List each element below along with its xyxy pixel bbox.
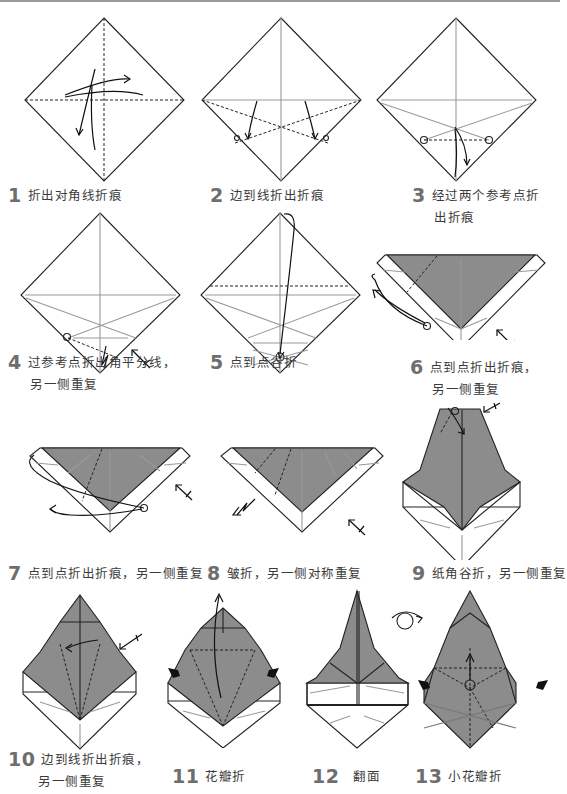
square-diamond-reference-points-icon bbox=[375, 15, 545, 185]
square-diamond-diagonal-creases-icon bbox=[20, 15, 190, 185]
step-4-caption: 4过参考点折出角平分线， 另一侧重复 bbox=[8, 351, 176, 396]
step-9-diagram bbox=[400, 400, 530, 560]
step-text: 点到点折出折痕， bbox=[430, 360, 538, 375]
step-12-diagram bbox=[300, 588, 430, 753]
step-13-caption: 13小花瓣折 bbox=[415, 765, 502, 788]
step-text: 折出对角线折痕 bbox=[28, 188, 123, 203]
bell-petal-fold-icon bbox=[165, 588, 285, 748]
bell-edge-to-line-icon bbox=[20, 592, 160, 752]
step-number: 5 bbox=[210, 351, 224, 373]
step-text: 点到点折出折痕，另一侧重复 bbox=[28, 566, 204, 581]
step-10-diagram bbox=[20, 592, 160, 752]
triangle-point-to-point-icon bbox=[20, 445, 200, 545]
step-8-caption: 8皱折，另一侧对称重复 bbox=[207, 562, 362, 585]
step-12-caption: 12翻面 bbox=[312, 765, 380, 788]
step-number: 3 bbox=[412, 184, 426, 206]
step-text: 过参考点折出角平分线， bbox=[28, 355, 177, 370]
step-2-diagram bbox=[200, 15, 370, 185]
step-text-line2: 另一侧重复 bbox=[8, 771, 149, 793]
step-text: 经过两个参考点折 bbox=[432, 188, 540, 203]
step-number: 13 bbox=[415, 765, 442, 787]
step-3-caption: 3经过两个参考点折 出折痕 bbox=[412, 184, 540, 229]
triangle-crimp-fold-icon bbox=[215, 445, 395, 545]
step-7-diagram bbox=[20, 445, 200, 545]
step-11-diagram bbox=[165, 588, 285, 748]
step-1-diagram bbox=[20, 15, 190, 185]
spire-turn-over-icon bbox=[300, 588, 430, 753]
square-diamond-edge-to-line-icon bbox=[200, 15, 370, 185]
step-number: 10 bbox=[8, 748, 35, 770]
step-number: 8 bbox=[207, 562, 221, 584]
step-7-caption: 7点到点折出折痕，另一侧重复 bbox=[8, 562, 203, 585]
step-text-line2: 出折痕 bbox=[412, 207, 540, 229]
step-2-caption: 2边到线折出折痕 bbox=[210, 184, 324, 207]
step-text-line2: 另一侧重复 bbox=[410, 379, 538, 401]
step-6-diagram bbox=[365, 250, 555, 340]
triangle-colored-crease-icon bbox=[365, 250, 555, 340]
step-text: 翻面 bbox=[353, 769, 380, 784]
step-1-caption: 1折出对角线折痕 bbox=[8, 184, 122, 207]
step-number: 1 bbox=[8, 184, 22, 206]
step-9-caption: 9纸角谷折，另一侧重复 bbox=[412, 562, 567, 585]
step-text: 皱折，另一侧对称重复 bbox=[227, 566, 362, 581]
step-number: 2 bbox=[210, 184, 224, 206]
step-5-caption: 5点到点谷折 bbox=[210, 351, 297, 374]
step-text: 小花瓣折 bbox=[448, 769, 502, 784]
top-border bbox=[0, 0, 560, 2]
step-8-diagram bbox=[215, 445, 395, 545]
step-number: 4 bbox=[8, 351, 22, 373]
step-text-line2: 另一侧重复 bbox=[8, 374, 176, 396]
step-number: 6 bbox=[410, 356, 424, 378]
step-text: 边到线折出折痕 bbox=[230, 188, 325, 203]
step-text: 纸角谷折，另一侧重复 bbox=[432, 566, 567, 581]
step-text: 边到线折出折痕， bbox=[41, 752, 149, 767]
step-11-caption: 11花瓣折 bbox=[172, 765, 246, 788]
step-number: 7 bbox=[8, 562, 22, 584]
step-number: 11 bbox=[172, 765, 199, 787]
step-10-caption: 10边到线折出折痕， 另一侧重复 bbox=[8, 748, 149, 793]
step-6-caption: 6点到点折出折痕， 另一侧重复 bbox=[410, 356, 538, 401]
step-text: 花瓣折 bbox=[205, 769, 246, 784]
step-number: 12 bbox=[312, 765, 339, 787]
tower-corner-valley-fold-icon bbox=[400, 400, 530, 560]
step-text: 点到点谷折 bbox=[230, 355, 298, 370]
step-number: 9 bbox=[412, 562, 426, 584]
spire-small-petal-fold-icon bbox=[418, 588, 558, 753]
step-3-diagram bbox=[375, 15, 545, 185]
step-13-diagram bbox=[418, 588, 558, 753]
